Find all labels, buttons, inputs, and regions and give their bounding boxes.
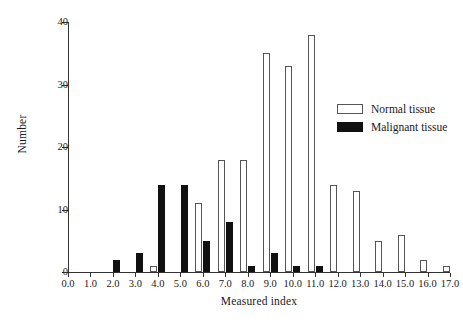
legend-label-normal-tissue: Normal tissue bbox=[371, 103, 435, 115]
bar-normal-tissue bbox=[195, 203, 202, 272]
x-axis-tick bbox=[428, 273, 429, 277]
bar-normal-tissue bbox=[263, 53, 270, 272]
bar-normal-tissue bbox=[218, 160, 225, 273]
x-axis-tick bbox=[90, 273, 91, 277]
chart-legend: Normal tissue Malignant tissue bbox=[337, 100, 447, 136]
x-axis-tick bbox=[68, 273, 69, 277]
y-axis-tick-label: 40 bbox=[30, 17, 68, 27]
x-axis-tick bbox=[293, 273, 294, 277]
x-axis-tick bbox=[383, 273, 384, 277]
bar-normal-tissue bbox=[420, 260, 427, 273]
bar-malignant-tissue bbox=[158, 185, 165, 273]
x-axis-line bbox=[68, 272, 450, 273]
x-axis-tick bbox=[405, 273, 406, 277]
bar-normal-tissue bbox=[240, 160, 247, 273]
y-axis-tick-label-text: 0 bbox=[46, 267, 68, 277]
bar-malignant-tissue bbox=[113, 260, 120, 273]
plot-area bbox=[0, 0, 463, 324]
y-axis-tick-label-text: 10 bbox=[46, 205, 68, 215]
bar-malignant-tissue bbox=[226, 222, 233, 272]
x-axis-title: Measured index bbox=[68, 295, 450, 307]
legend-item-normal-tissue: Normal tissue bbox=[337, 100, 447, 118]
y-axis-tick-label: 0 bbox=[30, 267, 68, 277]
x-axis-tick bbox=[360, 273, 361, 277]
bar-normal-tissue bbox=[330, 185, 337, 273]
x-axis-tick bbox=[203, 273, 204, 277]
bar-malignant-tissue bbox=[136, 253, 143, 272]
bar-malignant-tissue bbox=[271, 253, 278, 272]
histogram-figure: 010203040 Number 0.01.02.03.04.05.06.07.… bbox=[0, 0, 463, 324]
y-axis-tick-label-text: 30 bbox=[46, 80, 68, 90]
y-axis-tick-label: 30 bbox=[30, 80, 68, 90]
legend-swatch-normal-tissue bbox=[337, 104, 363, 114]
y-axis-line bbox=[68, 22, 69, 273]
x-axis-tick bbox=[270, 273, 271, 277]
y-axis-title: Number bbox=[16, 94, 28, 174]
bar-malignant-tissue bbox=[203, 241, 210, 272]
bar-normal-tissue bbox=[375, 241, 382, 272]
x-axis-tick bbox=[248, 273, 249, 277]
x-axis-tick bbox=[225, 273, 226, 277]
legend-item-malignant-tissue: Malignant tissue bbox=[337, 118, 447, 136]
y-axis-tick-label-text: 40 bbox=[46, 17, 68, 27]
bar-malignant-tissue bbox=[181, 185, 188, 273]
x-axis-tick-label: 17.0 bbox=[435, 278, 463, 290]
x-axis-tick bbox=[180, 273, 181, 277]
x-axis-tick bbox=[450, 273, 451, 277]
x-axis-tick bbox=[338, 273, 339, 277]
y-axis-tick-label-text: 20 bbox=[46, 142, 68, 152]
x-axis-tick bbox=[158, 273, 159, 277]
x-axis-tick bbox=[315, 273, 316, 277]
bar-normal-tissue bbox=[353, 191, 360, 272]
y-axis-tick-label: 10 bbox=[30, 205, 68, 215]
legend-swatch-malignant-tissue bbox=[337, 122, 363, 132]
bar-normal-tissue bbox=[308, 35, 315, 273]
bar-normal-tissue bbox=[285, 66, 292, 272]
x-axis-tick bbox=[113, 273, 114, 277]
x-axis-tick bbox=[135, 273, 136, 277]
legend-label-malignant-tissue: Malignant tissue bbox=[371, 121, 447, 133]
bar-normal-tissue bbox=[398, 235, 405, 273]
y-axis-tick-label: 20 bbox=[30, 142, 68, 152]
